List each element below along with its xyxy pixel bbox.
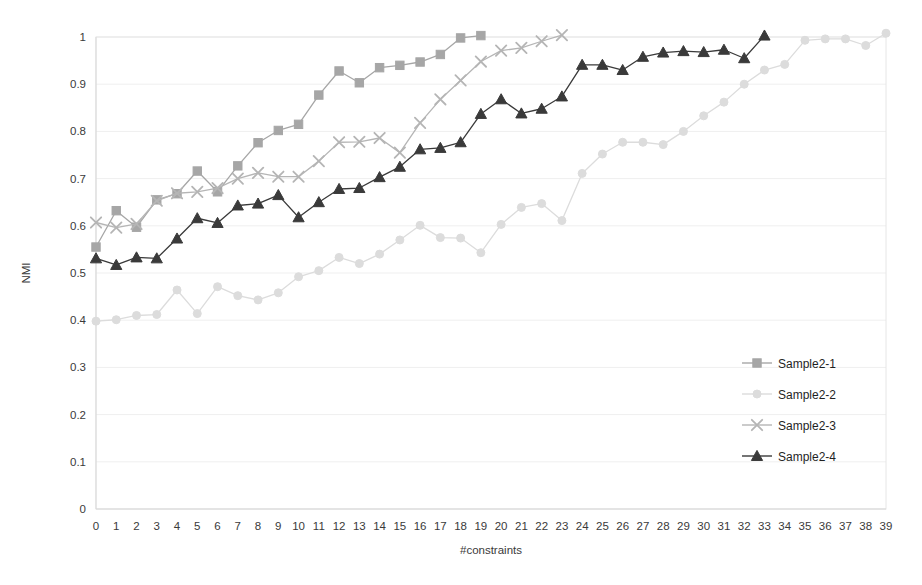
x-tick-label: 22 bbox=[535, 520, 548, 532]
x-tick-label: 25 bbox=[596, 520, 609, 532]
marker-circle bbox=[193, 310, 201, 318]
marker-square bbox=[375, 63, 383, 71]
marker-triangle bbox=[111, 259, 122, 269]
y-tick-label: 0.8 bbox=[70, 125, 86, 137]
x-axis-title: #constraints bbox=[460, 544, 522, 556]
marker-circle bbox=[295, 273, 303, 281]
x-tick-label: 20 bbox=[495, 520, 508, 532]
x-tick-label: 38 bbox=[859, 520, 872, 532]
marker-circle bbox=[862, 41, 870, 49]
y-tick-label: 0.1 bbox=[70, 456, 86, 468]
marker-circle bbox=[133, 311, 141, 319]
marker-x bbox=[374, 133, 384, 143]
series-sample2-1 bbox=[92, 31, 485, 251]
x-tick-label: 39 bbox=[880, 520, 893, 532]
gridlines bbox=[96, 37, 886, 509]
marker-circle bbox=[315, 267, 323, 275]
chart-legend: Sample2-1Sample2-2Sample2-3Sample2-4 bbox=[742, 357, 836, 464]
marker-circle bbox=[538, 200, 546, 208]
marker-square bbox=[234, 162, 242, 170]
y-tick-label: 0.9 bbox=[70, 78, 86, 90]
y-tick-label: 0.7 bbox=[70, 173, 86, 185]
y-axis-tick-labels: 00.10.20.30.40.50.60.70.80.91 bbox=[70, 31, 87, 515]
y-tick-label: 0.4 bbox=[70, 314, 87, 326]
x-tick-label: 12 bbox=[333, 520, 346, 532]
x-tick-label: 16 bbox=[414, 520, 427, 532]
x-tick-label: 9 bbox=[275, 520, 281, 532]
x-tick-label: 28 bbox=[657, 520, 670, 532]
series-line-sample2-1 bbox=[96, 36, 481, 247]
legend-item-sample2-1[interactable]: Sample2-1 bbox=[742, 357, 836, 371]
marker-circle bbox=[335, 253, 343, 261]
x-tick-label: 31 bbox=[718, 520, 731, 532]
marker-square bbox=[193, 167, 201, 175]
marker-circle bbox=[254, 296, 262, 304]
x-tick-label: 0 bbox=[93, 520, 99, 532]
x-tick-label: 15 bbox=[393, 520, 406, 532]
marker-x bbox=[314, 156, 324, 166]
x-tick-label: 29 bbox=[677, 520, 690, 532]
marker-x bbox=[395, 147, 405, 157]
x-tick-label: 14 bbox=[373, 520, 386, 532]
chart-container: 00.10.20.30.40.50.60.70.80.9101234567891… bbox=[0, 0, 922, 585]
marker-triangle bbox=[496, 94, 507, 104]
y-tick-label: 0.5 bbox=[70, 267, 86, 279]
marker-triangle bbox=[759, 30, 770, 40]
x-tick-label: 21 bbox=[515, 520, 528, 532]
x-tick-label: 10 bbox=[292, 520, 305, 532]
marker-circle bbox=[214, 283, 222, 291]
marker-circle bbox=[639, 138, 647, 146]
x-tick-label: 24 bbox=[576, 520, 589, 532]
x-tick-label: 18 bbox=[454, 520, 467, 532]
marker-circle bbox=[355, 260, 363, 268]
x-tick-label: 26 bbox=[616, 520, 629, 532]
marker-square bbox=[355, 79, 363, 87]
marker-circle bbox=[619, 138, 627, 146]
series-sample2-2 bbox=[92, 29, 890, 325]
legend-item-sample2-3[interactable]: Sample2-3 bbox=[742, 419, 836, 433]
marker-x bbox=[476, 56, 486, 66]
marker-square bbox=[477, 31, 485, 39]
x-tick-label: 35 bbox=[799, 520, 812, 532]
x-tick-label: 1 bbox=[113, 520, 119, 532]
marker-square bbox=[456, 34, 464, 42]
marker-circle bbox=[760, 66, 768, 74]
x-tick-label: 11 bbox=[313, 520, 325, 532]
x-tick-label: 5 bbox=[194, 520, 200, 532]
marker-circle bbox=[416, 221, 424, 229]
marker-circle bbox=[457, 234, 465, 242]
x-tick-label: 13 bbox=[353, 520, 366, 532]
x-tick-label: 17 bbox=[434, 520, 447, 532]
marker-square bbox=[92, 243, 100, 251]
marker-triangle bbox=[313, 197, 324, 207]
x-tick-label: 30 bbox=[697, 520, 710, 532]
x-tick-label: 3 bbox=[154, 520, 160, 532]
series-line-sample2-4 bbox=[96, 36, 764, 265]
marker-triangle bbox=[252, 198, 263, 208]
marker-triangle bbox=[131, 252, 142, 262]
marker-circle bbox=[274, 289, 282, 297]
legend-item-label: Sample2-2 bbox=[778, 388, 836, 402]
marker-triangle bbox=[536, 103, 547, 113]
marker-circle bbox=[659, 141, 667, 149]
legend-item-label: Sample2-1 bbox=[778, 357, 836, 371]
marker-circle bbox=[753, 390, 761, 398]
x-tick-label: 36 bbox=[819, 520, 832, 532]
marker-circle bbox=[700, 112, 708, 120]
nmi-vs-constraints-line-chart: 00.10.20.30.40.50.60.70.80.9101234567891… bbox=[0, 0, 922, 585]
marker-x bbox=[111, 222, 121, 232]
marker-circle bbox=[598, 150, 606, 158]
marker-square bbox=[112, 206, 120, 214]
marker-square bbox=[416, 58, 424, 66]
marker-triangle bbox=[273, 190, 284, 200]
marker-circle bbox=[234, 292, 242, 300]
legend-item-sample2-2[interactable]: Sample2-2 bbox=[742, 388, 836, 402]
marker-triangle bbox=[354, 182, 365, 192]
marker-triangle bbox=[192, 213, 203, 223]
marker-circle bbox=[679, 127, 687, 135]
x-axis-tick-labels: 0123456789101112131415161718192021222324… bbox=[93, 520, 893, 532]
marker-square bbox=[294, 120, 302, 128]
marker-x bbox=[435, 94, 445, 104]
marker-circle bbox=[517, 203, 525, 211]
x-tick-label: 33 bbox=[758, 520, 771, 532]
